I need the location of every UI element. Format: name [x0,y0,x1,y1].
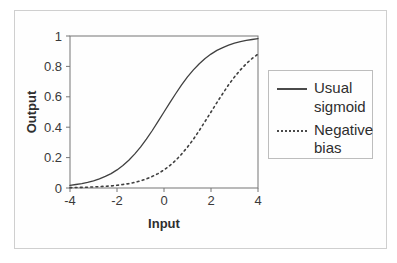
x-tick-label: 4 [254,193,261,208]
y-tick-label: 0.6 [44,89,62,104]
x-axis-title: Input [148,216,180,231]
y-tick-label: 0.2 [44,150,62,165]
legend-label: Usual sigmoid [314,79,372,117]
legend: Usual sigmoid Negative bias [268,70,373,159]
dotted-line-sample-icon [277,130,307,132]
solid-line-sample-icon [277,88,307,90]
x-tick-label: 2 [207,193,214,208]
y-tick-label: 0.4 [44,120,62,135]
y-tick-label: 0.8 [44,59,62,74]
y-tick-label: 0 [55,181,62,196]
series-line-negative-bias [70,54,258,188]
legend-entry-negative-bias: Negative bias [277,121,372,159]
x-tick-label: 0 [160,193,167,208]
legend-label: Negative bias [314,121,373,159]
y-axis-title: Output [24,91,39,134]
legend-entry-usual-sigmoid: Usual sigmoid [277,79,372,117]
y-tick-label: 1 [55,29,62,44]
x-tick-label: -2 [111,193,123,208]
x-tick-label: -4 [64,193,76,208]
series-line-usual-sigmoid [70,39,258,186]
figure-frame: 00.20.40.60.81-4-2024 Output Input Usual… [14,10,387,249]
